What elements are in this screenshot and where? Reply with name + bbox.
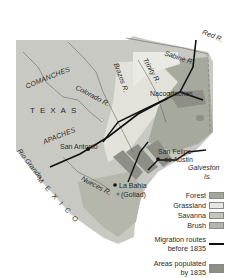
label-nacogdoches: Nacogdoches	[150, 90, 193, 97]
label-galveston-is: Is.	[204, 173, 211, 180]
legend-item-grassland: Grassland	[124, 200, 224, 210]
la-bahia-dot	[113, 183, 117, 187]
grassland-swatch	[209, 202, 224, 209]
label-galveston: Galveston	[188, 164, 220, 171]
map-legend: Forest Grassland Savanna Brush Migration…	[124, 190, 224, 278]
populated-area-5	[196, 115, 204, 121]
label-la-bahia: La Bahia	[119, 182, 147, 189]
populated-swatch	[209, 264, 224, 273]
legend-item-savanna: Savanna	[124, 210, 224, 220]
brush-swatch	[209, 222, 224, 229]
legend-item-populated: Areas populated by 1835	[124, 258, 224, 278]
label-de-austin: de Austin	[164, 156, 193, 163]
san-felipe-dot	[156, 157, 160, 161]
migration-route-swatch	[209, 243, 224, 245]
label-san-antonio: San Antonio	[60, 143, 98, 150]
colorado-settlement-dot	[101, 119, 104, 122]
legend-item-migration: Migration routes before 1835	[124, 234, 224, 254]
goliad-dot	[116, 192, 119, 195]
savanna-swatch	[209, 212, 224, 219]
texas-map: Red R. Sabine R. Trinity R. Brazos R. Co…	[8, 12, 224, 252]
label-san-felipe: San Felipe	[158, 148, 191, 155]
legend-item-forest: Forest	[124, 190, 224, 200]
forest-swatch	[209, 192, 224, 199]
label-texas: TEXAS	[30, 107, 81, 115]
legend-item-brush: Brush	[124, 220, 224, 230]
